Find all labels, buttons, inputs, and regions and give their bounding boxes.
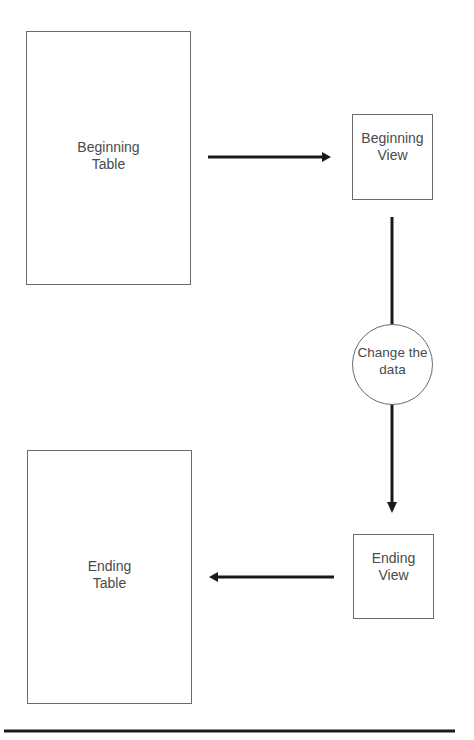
beginning-view-label: Beginning View bbox=[361, 130, 423, 164]
ending-table-node: Ending Table bbox=[27, 450, 192, 704]
ending-table-label: Ending Table bbox=[88, 558, 132, 592]
change-data-node: Change the data bbox=[352, 324, 433, 405]
arrow-down-to-ending-view bbox=[387, 404, 397, 513]
arrow-right-begin bbox=[208, 152, 331, 162]
ending-view-node: Ending View bbox=[353, 534, 434, 619]
change-data-label: Change the data bbox=[358, 344, 428, 378]
beginning-view-node: Beginning View bbox=[352, 114, 433, 200]
ending-view-label: Ending View bbox=[372, 550, 416, 584]
beginning-table-label: Beginning Table bbox=[77, 139, 139, 173]
beginning-table-node: Beginning Table bbox=[26, 31, 191, 285]
arrow-left-end bbox=[209, 572, 334, 582]
